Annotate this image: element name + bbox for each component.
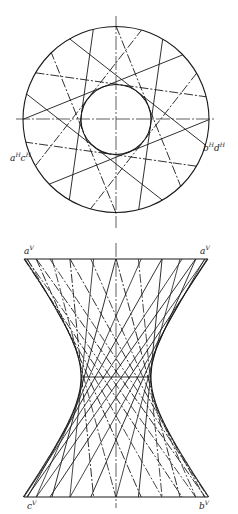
label-plan-left: aHcH [10,151,32,163]
label-front-top-right: aV [200,244,210,256]
front-view [23,243,208,508]
label-plan-right: bHdH [203,141,226,153]
label-front-bottom-right: bV [199,499,210,511]
hyperboloid-drawing: aHcH bHdH aV aV cV bV [0,0,238,514]
label-front-bottom-left: cV [27,499,37,511]
label-front-top-left: aV [24,244,34,256]
point-labels: aHcH bHdH aV aV cV bV [10,141,226,511]
plan-view [16,16,214,228]
